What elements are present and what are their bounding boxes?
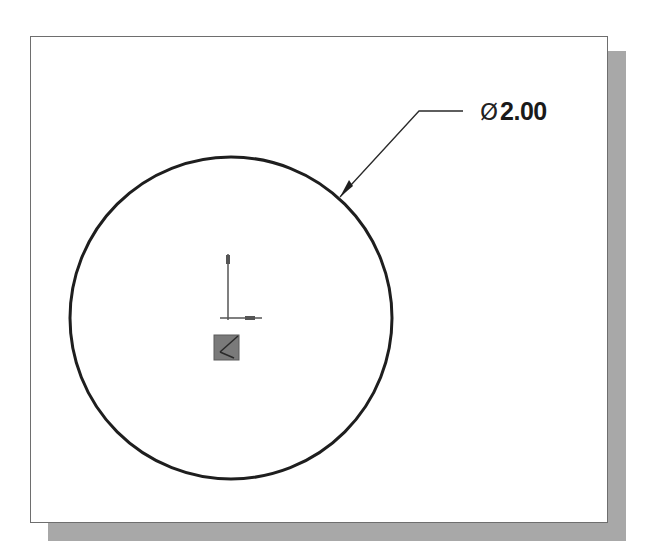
leader-arrowhead-icon — [340, 180, 353, 197]
dimension-leader[interactable] — [340, 111, 463, 197]
dimension-value: 2.00 — [500, 97, 547, 125]
origin-axes-icon — [220, 254, 262, 320]
diameter-symbol-icon: Ø — [480, 99, 498, 125]
sketch-canvas — [0, 0, 656, 554]
fixed-point-marker-icon[interactable] — [214, 335, 239, 360]
diameter-dimension-label[interactable]: Ø2.00 — [480, 96, 547, 126]
